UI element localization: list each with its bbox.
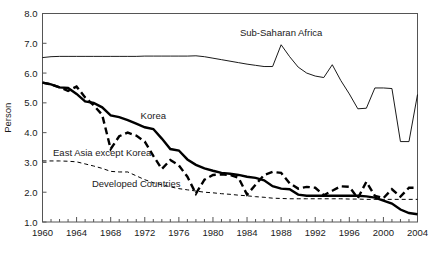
series-label-east-asia-except-korea: East Asia except Korea bbox=[53, 147, 152, 158]
plot-frame bbox=[43, 14, 418, 223]
x-tick-label: 1988 bbox=[271, 227, 292, 238]
y-tick-label: 8.0 bbox=[24, 8, 37, 19]
y-tick-label: 6.0 bbox=[24, 68, 37, 79]
y-axis-title: Person bbox=[2, 103, 13, 133]
x-tick-label: 1996 bbox=[339, 227, 360, 238]
y-axis-title-text: Person bbox=[2, 103, 13, 133]
y-tick-label: 4.0 bbox=[24, 127, 37, 138]
series-label-developed-countries: Developed Countries bbox=[92, 178, 181, 189]
series-annotations: Sub-Saharan AfricaKoreaEast Asia except … bbox=[53, 27, 323, 189]
y-tick-label: 3.0 bbox=[24, 157, 37, 168]
x-tick-label: 2000 bbox=[373, 227, 394, 238]
series-label-korea: Korea bbox=[141, 110, 167, 121]
x-tick-label: 1992 bbox=[305, 227, 326, 238]
chart-container: Person 1.02.03.04.05.06.07.08.0 19601964… bbox=[0, 0, 433, 256]
x-tick-label: 2004 bbox=[407, 227, 428, 238]
line-chart: Person 1.02.03.04.05.06.07.08.0 19601964… bbox=[0, 0, 433, 256]
y-tick-label: 7.0 bbox=[24, 38, 37, 49]
series-line-sub-saharan-africa bbox=[43, 45, 418, 142]
x-tick-label: 1964 bbox=[66, 227, 87, 238]
y-axis-ticks: 1.02.03.04.05.06.07.08.0 bbox=[24, 8, 46, 228]
y-tick-label: 2.0 bbox=[24, 187, 37, 198]
x-tick-label: 1972 bbox=[134, 227, 155, 238]
x-tick-label: 1984 bbox=[236, 227, 257, 238]
series-label-sub-saharan-africa: Sub-Saharan Africa bbox=[240, 27, 323, 38]
y-tick-label: 5.0 bbox=[24, 97, 37, 108]
x-tick-label: 1976 bbox=[168, 227, 189, 238]
x-axis-ticks: 1960196419681972197619801984198819921996… bbox=[32, 217, 428, 238]
x-tick-label: 1980 bbox=[202, 227, 223, 238]
x-tick-label: 1960 bbox=[32, 227, 53, 238]
x-tick-label: 1968 bbox=[100, 227, 121, 238]
y-tick-label: 1.0 bbox=[24, 217, 37, 228]
